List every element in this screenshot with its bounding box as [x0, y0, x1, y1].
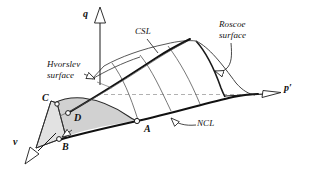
hvorslev-surface-label-line1: Hvorslev	[47, 60, 80, 69]
p-axis-label: p′	[284, 83, 292, 92]
v-axis-label: v	[13, 137, 18, 146]
q-axis	[95, 7, 106, 85]
point-c-marker	[55, 102, 59, 106]
hvorslev-leader	[84, 74, 95, 79]
ncl-leader	[171, 118, 196, 125]
ncl-label: NCL	[197, 119, 214, 128]
roscoe-surface-label-line2: surface	[219, 31, 246, 40]
hvorslev-surface-label-line2: surface	[47, 71, 74, 80]
point-b-label: B	[62, 142, 69, 151]
roscoe-surface-label-line1: Roscoe	[219, 20, 246, 29]
point-d-label: D	[74, 113, 81, 122]
diagram-canvas	[0, 0, 310, 174]
roscoe-surface-shell	[104, 39, 258, 121]
point-a-label: A	[144, 124, 151, 133]
q-axis-label: q	[83, 9, 88, 18]
csl-label: CSL	[135, 27, 151, 36]
point-b-marker	[57, 137, 62, 142]
critical-state-surface-diagram: q p′ v CSL Roscoe surface Hvorslev surfa…	[0, 0, 310, 174]
point-c-label: C	[42, 93, 49, 102]
point-a-marker	[134, 118, 139, 123]
point-d-marker	[66, 111, 71, 116]
